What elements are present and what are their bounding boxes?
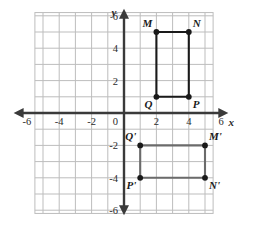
vertex-label: Q: [144, 98, 152, 110]
axes: [14, 9, 229, 216]
vertex-point: [137, 143, 143, 149]
vertex-point: [186, 94, 192, 100]
coordinate-plane-svg: -6-4-2246642-2-4-60 MNPQQ'M'N'P' xy: [0, 0, 264, 236]
vertex-label: P': [126, 179, 136, 191]
axis-names: xy: [110, 6, 235, 128]
coordinate-plane-figure: -6-4-2246642-2-4-60 MNPQQ'M'N'P' xy: [0, 0, 264, 236]
vertex-label: Q': [125, 130, 136, 142]
y-tick-label: 2: [113, 76, 118, 87]
vertex-label: M: [142, 17, 154, 29]
vertex-point: [154, 29, 160, 35]
vertex-point: [186, 29, 192, 35]
vertex-label: M': [208, 130, 222, 142]
y-tick-label: -6: [109, 205, 118, 216]
vertex-label: N': [208, 179, 220, 191]
x-axis-name: x: [228, 116, 235, 128]
x-tick-label: -4: [55, 116, 64, 127]
y-tick-label: 4: [113, 43, 119, 54]
vertex-point: [137, 175, 143, 181]
vertex-point: [202, 143, 208, 149]
vertex-point: [202, 175, 208, 181]
y-tick-label: -4: [109, 173, 118, 184]
origin-label: 0: [113, 116, 118, 127]
vertex-label: P: [193, 98, 200, 110]
vertex-label: N: [192, 17, 202, 29]
x-tick-label: -2: [87, 116, 96, 127]
y-tick-label: -2: [109, 140, 118, 151]
x-tick-label: 4: [186, 116, 192, 127]
y-axis-name: y: [110, 6, 117, 18]
x-tick-label: 6: [219, 116, 224, 127]
x-tick-label: -6: [22, 116, 31, 127]
x-tick-label: 2: [154, 116, 159, 127]
vertex-point: [154, 94, 160, 100]
y-axis-arrow-up: [119, 9, 129, 19]
